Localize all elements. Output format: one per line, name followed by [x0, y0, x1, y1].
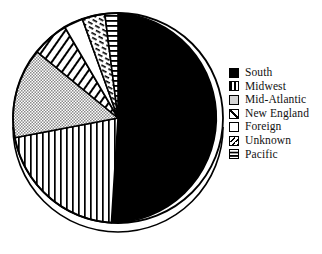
legend-label-unknown: Unknown: [245, 135, 291, 147]
legend-item-south[interactable]: South: [229, 66, 309, 80]
legend-label-south: South: [245, 67, 272, 79]
horizontal-lines-swatch: [229, 149, 239, 159]
legend-label-foreign: Foreign: [245, 121, 281, 133]
white-plain-swatch: [229, 122, 239, 132]
pie-chart-figure: South Midwest Mid-Atlantic New England F…: [0, 0, 322, 254]
solid-black-swatch: [229, 68, 239, 78]
legend-item-midwest[interactable]: Midwest: [229, 80, 309, 94]
dotted-gray-swatch: [229, 95, 239, 105]
diagonal-hatch-swatch: [229, 109, 239, 119]
legend-item-foreign[interactable]: Foreign: [229, 120, 309, 134]
pie-svg: [0, 0, 232, 254]
legend-item-new-england[interactable]: New England: [229, 107, 309, 121]
pie-chart-area: [0, 0, 232, 254]
legend-label-pacific: Pacific: [245, 149, 278, 161]
legend-label-midwest: Midwest: [245, 81, 286, 93]
legend-label-mid-atlantic: Mid-Atlantic: [245, 94, 306, 106]
vertical-lines-swatch: [229, 81, 239, 91]
legend-label-new-england: New England: [245, 108, 309, 120]
dashes-swatch: [229, 136, 239, 146]
legend-item-pacific[interactable]: Pacific: [229, 148, 309, 162]
legend-item-unknown[interactable]: Unknown: [229, 134, 309, 148]
chart-legend: South Midwest Mid-Atlantic New England F…: [229, 66, 309, 161]
legend-item-mid-atlantic[interactable]: Mid-Atlantic: [229, 93, 309, 107]
